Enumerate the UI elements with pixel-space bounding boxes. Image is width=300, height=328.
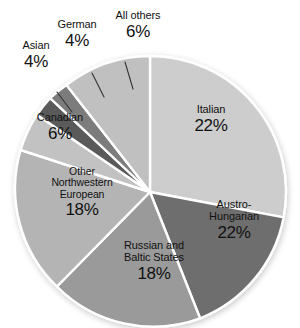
pie-label-austro-hungarian: Austro- Hungarian 22% [196, 199, 272, 242]
pie-label-russian-baltic-name-line2: Baltic States [106, 252, 202, 264]
pie-label-asian-value: 4% [10, 53, 62, 71]
pie-label-other-northwestern-european-name-line3: European [30, 189, 134, 200]
pie-label-russian-baltic: Russian and Baltic States 18% [106, 240, 202, 283]
pie-label-other-northwestern-european: Other Northwestern European 18% [30, 166, 134, 219]
pie-label-all-others-name: All others [102, 10, 174, 22]
pie-chart: Italian 22% Austro- Hungarian 22% Russia… [0, 0, 300, 328]
pie-label-all-others: All others 6% [102, 10, 174, 41]
pie-label-other-northwestern-european-value: 18% [30, 201, 134, 219]
pie-label-italian-name: Italian [176, 104, 246, 116]
pie-label-austro-hungarian-name-line2: Hungarian [196, 211, 272, 223]
pie-label-german-value: 4% [48, 32, 106, 50]
pie-slice-italian[interactable] [150, 56, 286, 217]
pie-label-all-others-value: 6% [102, 23, 174, 41]
pie-label-italian: Italian 22% [176, 104, 246, 135]
pie-label-canadian-name: Canadian [24, 112, 96, 124]
pie-label-italian-value: 22% [176, 117, 246, 135]
pie-label-german: German 4% [48, 19, 106, 50]
pie-label-austro-hungarian-value: 22% [196, 224, 272, 242]
pie-label-russian-baltic-value: 18% [106, 265, 202, 283]
pie-label-german-name: German [48, 19, 106, 31]
pie-label-canadian: Canadian 6% [24, 112, 96, 143]
pie-label-canadian-value: 6% [24, 125, 96, 143]
pie-label-other-northwestern-european-name-line2: Northwestern [30, 177, 134, 188]
